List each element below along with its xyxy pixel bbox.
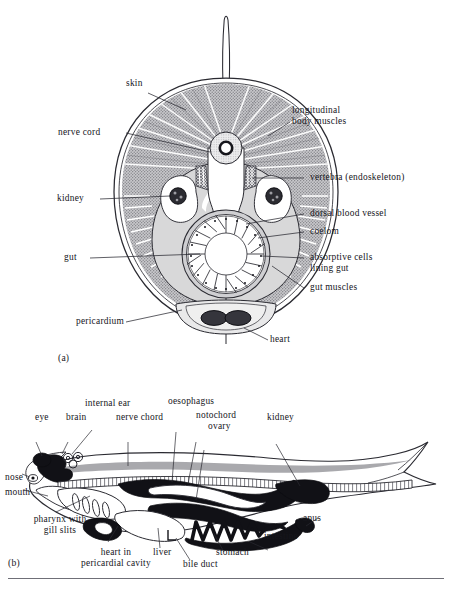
label-nose: nose — [5, 472, 23, 483]
label-mouth: mouth — [5, 487, 30, 498]
label-nerve-cord: nerve cord — [58, 127, 100, 138]
figure-page: skin longitudinal body muscles nerve cor… — [0, 0, 452, 592]
label-liver: liver — [153, 547, 171, 558]
kidney-left — [170, 188, 186, 204]
panel-tag-a: (a) — [58, 352, 69, 363]
label-skin: skin — [126, 78, 143, 89]
label-eye: eye — [35, 412, 49, 423]
label-intestine: intestine — [264, 531, 298, 542]
bottom-divider — [8, 578, 444, 579]
label-brain: brain — [66, 412, 87, 423]
label-absorptive-cells: absorptive cells lining gut — [310, 252, 373, 274]
label-pericardium: pericardium — [76, 316, 124, 327]
label-heart: heart — [270, 334, 290, 345]
label-nerve-chord: nerve chord — [116, 412, 163, 423]
label-coelom: coelom — [310, 226, 339, 237]
eye — [33, 453, 51, 467]
panel-tag-b: (b) — [8, 557, 20, 568]
label-pharynx-gill-slits: pharynx with gill slits — [14, 514, 106, 536]
dorsal-fin — [223, 16, 230, 86]
cross-section-diagram — [0, 0, 452, 380]
label-longitudinal-body-muscles: longitudinal body muscles — [292, 105, 346, 127]
label-bile-duct: bile duct — [183, 559, 218, 570]
label-oesophagus: oesophagus — [168, 396, 214, 407]
label-kidney: kidney — [57, 193, 84, 204]
label-notochord: notochord — [196, 410, 236, 421]
label-dorsal-blood-vessel: dorsal blood vessel — [310, 208, 387, 219]
label-anus: anus — [303, 513, 321, 524]
label-kidney-b: kidney — [267, 412, 294, 423]
gut-lumen — [205, 233, 247, 275]
label-stomach: stomach — [216, 547, 249, 558]
label-ovary: ovary — [208, 421, 231, 432]
label-gut-muscles: gut muscles — [310, 282, 357, 293]
label-gut: gut — [64, 252, 77, 263]
kidney-right — [266, 188, 282, 204]
label-vertebra: vertebra (endoskeleton) — [310, 172, 405, 183]
label-internal-ear: internal ear — [85, 398, 130, 409]
